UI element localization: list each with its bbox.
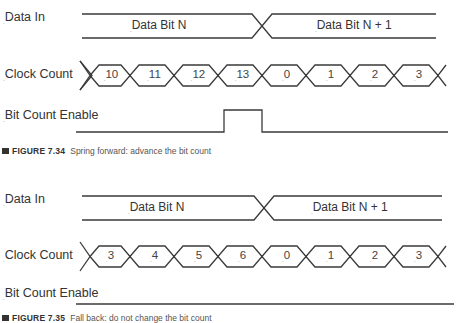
clock-value: .12 (191, 68, 205, 82)
data-bit-n-plus-1-label: .Data Bit N + 1 (315, 18, 392, 33)
signal-label-clock-count: .Clock Count (3, 67, 73, 82)
clock-value: .3 (414, 249, 422, 263)
clock-value: .5 (194, 249, 202, 263)
data-bit-n-plus-1-label: .Data Bit N + 1 (311, 200, 388, 215)
data-bit-n-label: .Data Bit N (130, 18, 186, 33)
clock-value: .6 (238, 249, 246, 263)
clock-value: .3 (106, 249, 114, 263)
clock-value: .2 (370, 68, 378, 82)
clock-value: .11 (147, 68, 161, 82)
signal-label-data-in: .Data In (3, 192, 45, 207)
data-bit-n-label: .Data Bit N (128, 200, 184, 215)
signal-label-clock-count: .Clock Count (3, 248, 73, 263)
figure-caption: FIGURE 7.35Fall back: do not change the … (2, 313, 212, 323)
clock-value: .1 (326, 249, 334, 263)
figure-caption: FIGURE 7.34Spring forward: advance the b… (2, 146, 211, 156)
signal-label-bit-count-enable: .Bit Count Enable (3, 108, 98, 123)
clock-value: .0 (282, 249, 290, 263)
clock-value: .10 (104, 68, 118, 82)
clock-value: .1 (326, 68, 334, 82)
figure-7-35: .Data In .Data Bit N .Data Bit N + 1 .Cl… (0, 176, 463, 323)
bit-count-enable-pulse (76, 110, 448, 132)
clock-value: .0 (282, 68, 290, 82)
clock-value: .13 (235, 68, 249, 82)
clock-value: .4 (150, 249, 158, 263)
figure-7-34: .Data In .Data Bit N .Data Bit N + 1 .Cl… (0, 0, 463, 150)
signal-label-bit-count-enable: .Bit Count Enable (3, 286, 98, 301)
caption-square-icon (2, 148, 9, 154)
signal-label-data-in: .Data In (3, 10, 45, 25)
caption-square-icon (2, 315, 9, 321)
clock-value: .2 (370, 249, 378, 263)
clock-value: .3 (414, 68, 422, 82)
